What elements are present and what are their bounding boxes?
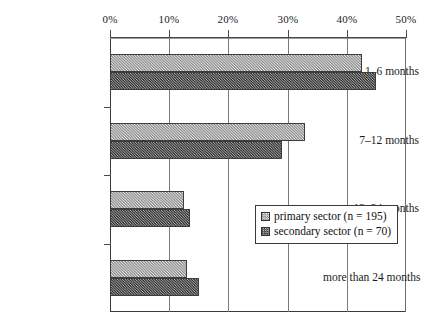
x-tick-label: 40% bbox=[327, 13, 367, 25]
bar-secondary bbox=[110, 72, 376, 90]
chart-legend: primary sector (n = 195) secondary secto… bbox=[255, 205, 398, 244]
x-tick-label: 50% bbox=[386, 13, 426, 25]
x-tick bbox=[406, 30, 407, 38]
legend-swatch-secondary-icon bbox=[261, 227, 270, 236]
x-tick bbox=[288, 30, 289, 38]
x-tick bbox=[110, 30, 111, 38]
legend-label-primary: primary sector (n = 195) bbox=[274, 209, 387, 224]
legend-item-primary: primary sector (n = 195) bbox=[261, 209, 391, 224]
y-category-label: 7–12 months bbox=[323, 134, 427, 147]
legend-item-secondary: secondary sector (n = 70) bbox=[261, 224, 391, 239]
x-tick bbox=[228, 30, 229, 38]
x-tick-label: 20% bbox=[208, 13, 248, 25]
bar-secondary bbox=[110, 278, 199, 296]
x-tick bbox=[347, 30, 348, 38]
bar-secondary bbox=[110, 209, 190, 227]
x-tick bbox=[169, 30, 170, 38]
y-tick bbox=[104, 107, 111, 108]
legend-swatch-primary-icon bbox=[261, 212, 270, 221]
bar-primary bbox=[110, 260, 187, 278]
plot-top-border bbox=[110, 38, 406, 39]
x-tick-label: 10% bbox=[149, 13, 189, 25]
x-tick-label: 0% bbox=[90, 13, 130, 25]
y-tick bbox=[104, 175, 111, 176]
bar-chart: 0%10%20%30%40%50% 1–6 months7–12 months1… bbox=[0, 0, 427, 325]
y-category-label: more than 24 months bbox=[323, 271, 427, 284]
bar-primary bbox=[110, 54, 362, 72]
legend-label-secondary: secondary sector (n = 70) bbox=[274, 224, 391, 239]
bar-secondary bbox=[110, 141, 282, 159]
y-tick bbox=[104, 244, 111, 245]
bar-primary bbox=[110, 123, 305, 141]
x-tick-label: 30% bbox=[268, 13, 308, 25]
bar-primary bbox=[110, 191, 184, 209]
